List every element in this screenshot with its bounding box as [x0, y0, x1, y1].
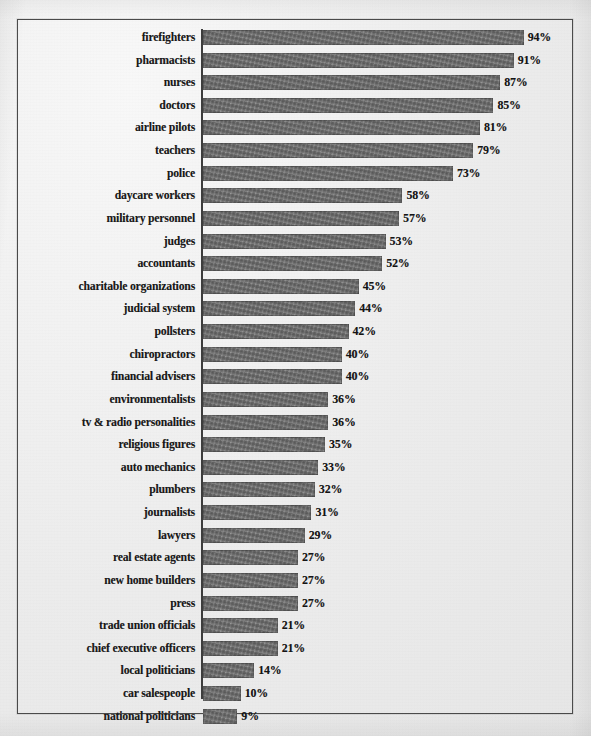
bar-category-label: auto mechanics	[10, 460, 195, 475]
bar-value-label: 40%	[346, 347, 369, 362]
bar-row: chiropractors40%	[0, 347, 591, 370]
bar-category-label: car salespeople	[10, 686, 195, 701]
bar-value-label: 94%	[528, 30, 551, 45]
bar-category-label: judges	[10, 234, 195, 249]
bar-value-label: 33%	[322, 460, 345, 475]
bar-row: nurses87%	[0, 75, 591, 98]
bar-category-label: doctors	[10, 98, 195, 113]
bar-row: tv & radio personalities36%	[0, 415, 591, 438]
bar	[203, 75, 500, 90]
bar	[203, 369, 342, 384]
bar-row: charitable organizations45%	[0, 279, 591, 302]
bar	[203, 347, 342, 362]
bar-category-label: journalists	[10, 505, 195, 520]
bar-category-label: daycare workers	[10, 188, 195, 203]
bar-value-label: 27%	[302, 550, 325, 565]
bar-category-label: local politicians	[10, 663, 195, 678]
bar-value-label: 79%	[477, 143, 500, 158]
bar	[203, 686, 241, 701]
bar-row: national politicians9%	[0, 709, 591, 732]
bar-value-label: 27%	[302, 596, 325, 611]
bar	[203, 573, 298, 588]
bar	[203, 211, 399, 226]
bar-value-label: 57%	[403, 211, 426, 226]
bar-category-label: trade union officials	[10, 618, 195, 633]
bar-value-label: 45%	[363, 279, 386, 294]
bar-category-label: accountants	[10, 256, 195, 271]
bar	[203, 279, 359, 294]
bar-category-label: teachers	[10, 143, 195, 158]
bar-category-label: new home builders	[10, 573, 195, 588]
bar	[203, 392, 328, 407]
bar-category-label: charitable organizations	[10, 279, 195, 294]
bar	[203, 550, 298, 565]
bar	[203, 30, 524, 45]
bar-value-label: 85%	[497, 98, 520, 113]
bar	[203, 188, 402, 203]
bar-category-label: tv & radio personalities	[10, 415, 195, 430]
bar	[203, 256, 382, 271]
bar-row: lawyers29%	[0, 528, 591, 551]
bar-row: pharmacists91%	[0, 53, 591, 76]
bar-value-label: 36%	[332, 415, 355, 430]
bar-category-label: police	[10, 166, 195, 181]
bar	[203, 460, 318, 475]
bar	[203, 301, 355, 316]
bar-value-label: 31%	[315, 505, 338, 520]
bar-row: military personnel57%	[0, 211, 591, 234]
bar-category-label: environmentalists	[10, 392, 195, 407]
bar-value-label: 42%	[353, 324, 376, 339]
bar	[203, 641, 278, 656]
bar	[203, 437, 325, 452]
bar	[203, 709, 237, 724]
bar-value-label: 36%	[332, 392, 355, 407]
bar-row: judicial system44%	[0, 301, 591, 324]
bar-category-label: plumbers	[10, 482, 195, 497]
bar-row: teachers79%	[0, 143, 591, 166]
bar-value-label: 52%	[386, 256, 409, 271]
bar-value-label: 87%	[504, 75, 527, 90]
bar-row: financial advisers40%	[0, 369, 591, 392]
bar-row: pollsters42%	[0, 324, 591, 347]
bar-row: local politicians14%	[0, 663, 591, 686]
bar-category-label: financial advisers	[10, 369, 195, 384]
bar-value-label: 40%	[346, 369, 369, 384]
bar-row: religious figures35%	[0, 437, 591, 460]
bar-row: journalists31%	[0, 505, 591, 528]
bar	[203, 505, 311, 520]
bar-category-label: military personnel	[10, 211, 195, 226]
bar-category-label: press	[10, 596, 195, 611]
bar-row: judges53%	[0, 234, 591, 257]
bar-value-label: 91%	[518, 53, 541, 68]
bar-row: new home builders27%	[0, 573, 591, 596]
bar-row: chief executive officers21%	[0, 641, 591, 664]
bar-value-label: 14%	[258, 663, 281, 678]
bar-category-label: chiropractors	[10, 347, 195, 362]
bar-row: trade union officials21%	[0, 618, 591, 641]
bar-value-label: 53%	[390, 234, 413, 249]
bar-row: real estate agents27%	[0, 550, 591, 573]
bar-category-label: nurses	[10, 75, 195, 90]
bar-value-label: 9%	[241, 709, 259, 724]
bar-category-label: airline pilots	[10, 120, 195, 135]
bar-value-label: 81%	[484, 120, 507, 135]
bar-value-label: 73%	[457, 166, 480, 181]
bar-category-label: religious figures	[10, 437, 195, 452]
bar-category-label: judicial system	[10, 301, 195, 316]
bar-value-label: 44%	[359, 301, 382, 316]
bar	[203, 663, 254, 678]
bar-value-label: 32%	[319, 482, 342, 497]
bar-category-label: real estate agents	[10, 550, 195, 565]
bar	[203, 166, 453, 181]
bar	[203, 596, 298, 611]
bar-value-label: 21%	[282, 618, 305, 633]
bar-category-label: pollsters	[10, 324, 195, 339]
bar	[203, 415, 328, 430]
bar-row: car salespeople10%	[0, 686, 591, 709]
bar-row: daycare workers58%	[0, 188, 591, 211]
bar-value-label: 35%	[329, 437, 352, 452]
bar	[203, 618, 278, 633]
bar-category-label: pharmacists	[10, 53, 195, 68]
bar	[203, 482, 315, 497]
bar-row: police73%	[0, 166, 591, 189]
